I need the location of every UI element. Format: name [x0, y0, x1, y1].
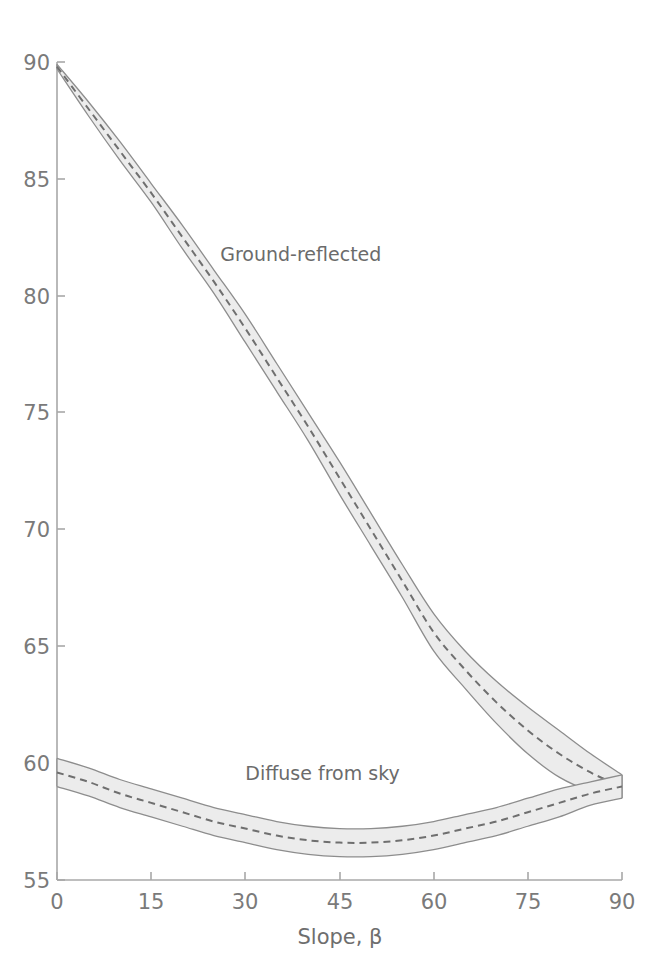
x-axis-title: Slope, β [297, 925, 382, 949]
y-tick-label-60: 60 [23, 752, 50, 776]
annotation-ground-reflected: Ground-reflected [220, 243, 381, 265]
x-tick-label-90: 90 [609, 890, 636, 914]
y-tick-label-65: 65 [23, 635, 50, 659]
x-tick-label-60: 60 [421, 890, 448, 914]
x-tick-label-0: 0 [50, 890, 63, 914]
x-tick-label-30: 30 [232, 890, 259, 914]
y-tick-label-90: 90 [23, 51, 50, 75]
x-tick-label-75: 75 [515, 890, 542, 914]
annotation-diffuse-from-sky: Diffuse from sky [245, 762, 399, 784]
y-tick-label-55: 55 [23, 869, 50, 893]
x-tick-label-45: 45 [327, 890, 354, 914]
y-tick-label-75: 75 [23, 401, 50, 425]
y-tick-label-85: 85 [23, 168, 50, 192]
figure-container: Effective incidence angle, θ [0, 0, 667, 961]
chart-plot-area: 90 85 80 75 70 65 60 55 0 15 30 45 60 75… [0, 0, 667, 961]
x-tick-label-15: 15 [138, 890, 165, 914]
y-tick-label-70: 70 [23, 518, 50, 542]
y-tick-label-80: 80 [23, 285, 50, 309]
